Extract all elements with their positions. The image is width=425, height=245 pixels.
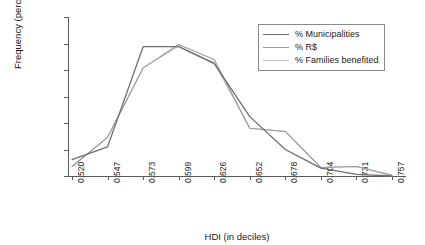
legend-label-municipalities: % Municipalities [295,30,360,39]
plot-area: 051015202530 0.5200.5470.5730.5990.6260.… [68,17,406,177]
legend-swatch-rs [263,47,289,48]
legend-label-families-benefited: % Families benefited [295,56,379,65]
legend-item-rs: % R$ [263,41,379,54]
chart-legend: % Municipalities % R$ % Families benefit… [258,24,385,71]
y-axis-title: Frequency (percentage) [12,0,23,69]
legend-item-families-benefited: % Families benefited [263,54,379,67]
chart-figure: 051015202530 0.5200.5470.5730.5990.6260.… [0,0,425,245]
legend-label-rs: % R$ [295,43,317,52]
legend-item-municipalities: % Municipalities [263,28,379,41]
x-axis-title: HDI (in deciles) [68,231,406,242]
legend-swatch-municipalities [263,34,289,35]
legend-swatch-families-benefited [263,60,289,61]
